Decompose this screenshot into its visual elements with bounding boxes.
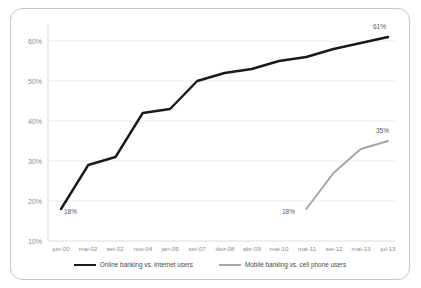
legend-label-mobile-banking: Mobile banking vs. cell phone users (245, 262, 346, 268)
y-tick-40: 40% (28, 118, 42, 125)
legend-swatch-black-line-icon (74, 264, 96, 266)
legend-item-mobile-banking[interactable]: Mobile banking vs. cell phone users (219, 262, 346, 268)
x-tick-set-12: set-12 (325, 245, 343, 252)
series-online-banking-line (61, 37, 388, 209)
data-label-mobile-end: 35% (376, 127, 389, 134)
y-tick-20: 20% (28, 198, 42, 205)
y-tick-60: 60% (28, 38, 42, 45)
x-tick-abr-09: abr-09 (243, 245, 261, 252)
y-tick-30: 30% (28, 158, 42, 165)
x-tick-mai-11: mai-11 (298, 245, 317, 252)
chart-legend: Online banking vs. internet users Mobile… (10, 262, 410, 268)
y-tick-10: 10% (28, 238, 42, 245)
y-axis-tick-labels: 60% 50% 40% 30% 20% 10% (28, 38, 42, 245)
x-tick-dez-08: dez-08 (216, 245, 235, 252)
data-labels: 18% 61% 18% 35% (64, 23, 389, 215)
x-tick-set-07: set-07 (188, 245, 206, 252)
x-tick-jun-00: jun-00 (51, 245, 70, 252)
line-chart-svg: 60% 50% 40% 30% 20% 10% jun-00 mai-02 se… (0, 0, 421, 288)
data-label-mobile-start: 18% (282, 208, 295, 215)
series-mobile-banking-line (306, 141, 388, 209)
legend-item-online-banking[interactable]: Online banking vs. internet users (74, 262, 193, 268)
x-tick-nov-04: nov-04 (134, 245, 153, 252)
chart-plot-area: 60% 50% 40% 30% 20% 10% jun-00 mai-02 se… (0, 0, 421, 288)
data-label-online-start: 18% (64, 208, 77, 215)
data-label-online-end: 61% (373, 23, 386, 30)
x-tick-mai-10: mai-10 (270, 245, 289, 252)
legend-label-online-banking: Online banking vs. internet users (100, 262, 193, 268)
x-tick-jan-05: jan-05 (160, 245, 179, 252)
x-axis-tick-labels: jun-00 mai-02 set-02 nov-04 jan-05 set-0… (51, 245, 396, 252)
gridlines (48, 41, 395, 201)
x-tick-mai-02: mai-02 (79, 245, 98, 252)
y-tick-50: 50% (28, 78, 42, 85)
x-tick-set-02: set-02 (106, 245, 124, 252)
x-tick-mai-13: mai-13 (352, 245, 371, 252)
x-tick-jul-13: jul-13 (379, 245, 396, 252)
legend-swatch-gray-line-icon (219, 264, 241, 266)
